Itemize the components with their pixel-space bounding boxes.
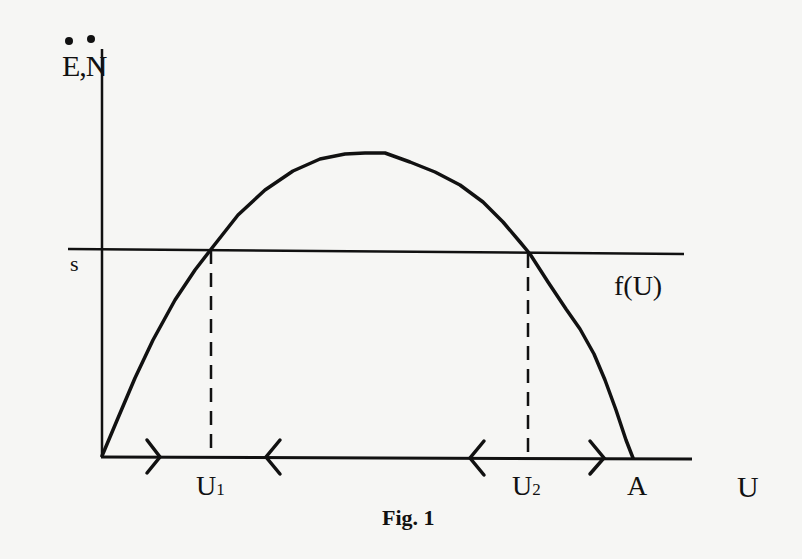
s-line-label: s: [70, 251, 79, 277]
curve-label: f(U): [614, 270, 662, 302]
phase-diagram: [0, 0, 802, 559]
x-axis-label: U: [737, 470, 759, 504]
s-line: [68, 249, 684, 254]
u1-label: U1: [196, 470, 225, 502]
a-point-label: A: [627, 470, 647, 502]
figure-caption: Fig. 1: [382, 505, 435, 531]
u2-label-subscript: 2: [532, 480, 541, 499]
u2-label: U2: [512, 470, 541, 502]
u1-label-subscript: 1: [216, 480, 225, 499]
f-u-curve: [102, 153, 633, 458]
u2-label-main: U: [512, 470, 532, 501]
y-axis-label: E,N: [62, 49, 107, 83]
dot-accent-icon: [87, 35, 95, 43]
u1-label-main: U: [196, 470, 216, 501]
dot-accent-icon: [65, 37, 73, 45]
